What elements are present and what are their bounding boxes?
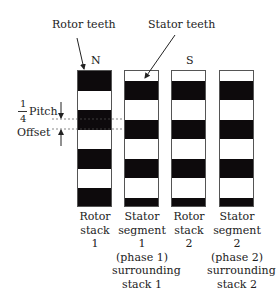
rotor-teeth-arrow-icon bbox=[77, 38, 84, 69]
annotation-overlay bbox=[0, 0, 276, 302]
stator-teeth-arrow-icon bbox=[145, 35, 175, 78]
